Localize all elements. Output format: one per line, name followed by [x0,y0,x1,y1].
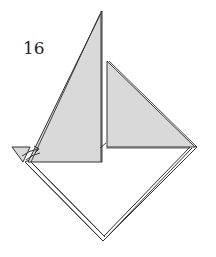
right-sail [106,61,197,148]
left-sail [28,11,106,162]
left-flap [12,147,30,162]
origami-diagram [0,0,216,257]
